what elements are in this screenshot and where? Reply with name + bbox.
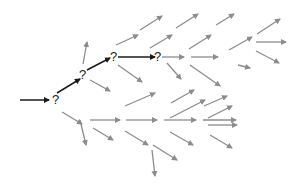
branch-arrow: [204, 96, 227, 106]
branch-arrow: [93, 128, 113, 140]
decision-node-question-mark: ?: [79, 68, 86, 81]
branch-arrow: [125, 93, 155, 106]
branch-arrow: [152, 150, 155, 176]
branch-arrow: [118, 65, 142, 82]
branch-arrow: [90, 80, 110, 91]
branch-arrow: [62, 112, 82, 124]
branch-arrow: [170, 132, 193, 145]
branch-arrow: [80, 120, 86, 145]
branch-arrows: [62, 14, 286, 176]
branch-arrow: [167, 63, 181, 79]
branch-arrow: [256, 51, 279, 63]
path-arrow: [87, 58, 110, 70]
decision-tree-diagram: [0, 0, 304, 193]
branch-arrow: [153, 145, 177, 160]
branch-arrow: [208, 106, 232, 118]
branch-arrow: [238, 65, 250, 68]
branch-arrow: [176, 14, 198, 28]
branch-arrow: [83, 42, 87, 64]
branch-arrow: [140, 16, 162, 30]
branch-arrow: [190, 65, 220, 86]
decision-node-question-mark: ?: [52, 93, 59, 106]
decision-node-question-mark: ?: [110, 50, 117, 63]
path-arrow: [57, 79, 80, 93]
branch-arrow: [150, 35, 172, 48]
branch-arrow: [210, 135, 232, 148]
decision-node-question-mark: ?: [154, 50, 161, 63]
branch-arrow: [125, 131, 148, 145]
branch-arrow: [257, 19, 280, 34]
branch-arrow: [229, 37, 252, 50]
branch-arrow: [171, 90, 194, 103]
branch-arrow: [170, 100, 205, 118]
branch-arrow: [116, 35, 138, 45]
branch-arrow: [189, 35, 211, 49]
branch-arrow: [216, 14, 234, 25]
highlighted-path-arrows: [20, 57, 155, 100]
